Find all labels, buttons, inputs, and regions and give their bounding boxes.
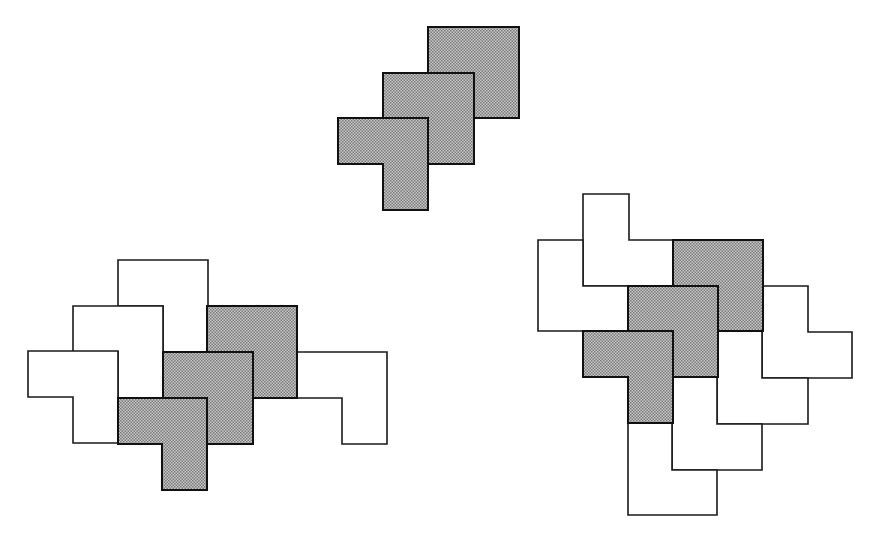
left-white-4-tile	[297, 352, 387, 444]
top-stack-grey	[338, 27, 519, 210]
top-grey-3-tile	[338, 118, 428, 210]
left-white-3-tile	[28, 351, 118, 443]
right-white-1-tile	[583, 194, 673, 286]
left-grey-3-tile	[118, 398, 207, 490]
right-white-3-tile	[762, 286, 852, 378]
tiling-diagram	[0, 0, 878, 546]
right-grey-3-tile	[583, 331, 673, 423]
